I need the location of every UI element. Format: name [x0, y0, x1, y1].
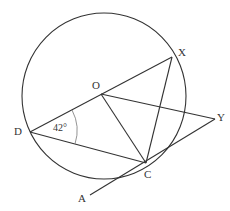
circle-geometry-diagram: O X Y D C A 42°	[0, 0, 230, 211]
label-O: O	[92, 80, 100, 91]
label-Y: Y	[217, 112, 225, 123]
label-C: C	[144, 169, 151, 180]
label-D: D	[14, 126, 22, 137]
angle-label: 42°	[53, 123, 67, 133]
angle-arc-D	[72, 110, 77, 144]
circle	[22, 13, 186, 179]
label-X: X	[178, 47, 186, 58]
label-A: A	[78, 193, 86, 204]
line-AY-tangent	[90, 119, 215, 195]
diagram-canvas	[0, 0, 230, 211]
